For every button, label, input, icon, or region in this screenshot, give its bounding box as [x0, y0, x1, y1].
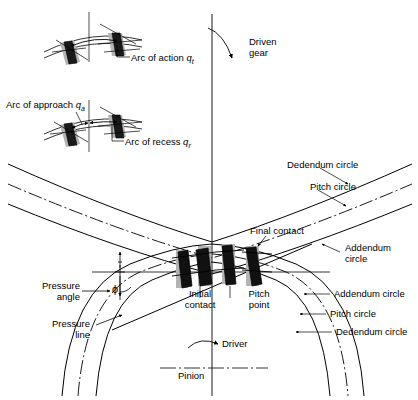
tooth-pair-pitch-point	[216, 245, 244, 285]
inset-arc-of-action	[44, 12, 142, 65]
initial-contact-label: Initial contact	[168, 288, 232, 310]
gear-addendum-leader	[322, 244, 340, 252]
gear-action-figure: Arc of action qt Arc of approach qa Arc …	[0, 0, 418, 400]
meshing-teeth-group	[172, 244, 272, 288]
figure-linework	[0, 0, 418, 400]
pressure-line-label: Pressure line	[20, 318, 90, 340]
arc-of-approach-label: Arc of approach qa	[6, 99, 85, 114]
pinion-pitch-circle-path	[78, 254, 348, 396]
gear-dedendum-circle-label: Dedendum circle	[287, 159, 358, 170]
driver-rotation-arrow	[188, 341, 218, 348]
pinion-label: Pinion	[178, 370, 204, 381]
pressure-angle-symbol: ϕ	[112, 284, 118, 295]
gear-pitch-leader	[318, 190, 346, 206]
pinion-addendum-circle-label: Addendum circle	[334, 288, 405, 299]
final-contact-label: Final contact	[250, 225, 304, 236]
gear-dedendum-circle-path	[8, 164, 412, 242]
pitch-point-label: Pitch point	[234, 288, 284, 310]
pressure-angle-label: Pressure angle	[14, 280, 80, 302]
pinion-dedendum-circle-label: Dedendum circle	[336, 326, 407, 337]
gear-pitch-circle-label: Pitch circle	[310, 181, 356, 192]
pinion-dedendum-circle-path	[62, 244, 364, 396]
arc-of-action-label: Arc of action qt	[131, 52, 194, 67]
pinion-circles	[62, 244, 364, 396]
inset2-tooth-left	[50, 122, 88, 147]
driven-gear-label: Driven gear	[249, 36, 276, 58]
arc-of-recess-label: Arc of recess qr	[125, 136, 191, 151]
pressure-line-leader	[96, 315, 122, 325]
gear-addendum-circle-label: Addendum circle	[345, 242, 391, 264]
inset2-tooth-right	[98, 107, 142, 138]
driver-label: Driver	[222, 338, 247, 349]
pinion-addendum-circle-path	[96, 262, 330, 396]
pinion-pitch-circle-label: Pitch circle	[330, 308, 376, 319]
